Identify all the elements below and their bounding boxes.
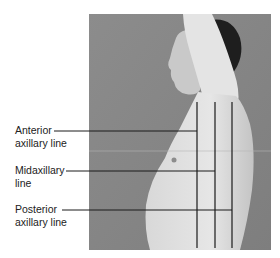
midaxillary-label-line1: Midaxillary <box>15 164 65 177</box>
midaxillary-label-line2: line <box>15 177 65 190</box>
posterior-label-line1: Posterior <box>15 203 67 216</box>
axillary-lines-figure: Anterior axillary line Midaxillary line … <box>0 0 280 258</box>
posterior-label-line2: axillary line <box>15 216 67 229</box>
midaxillary-label: Midaxillary line <box>15 164 65 190</box>
nipple <box>172 158 177 163</box>
anterior-label-line1: Anterior <box>15 124 67 137</box>
anterior-axillary-label: Anterior axillary line <box>15 124 67 150</box>
posterior-axillary-label: Posterior axillary line <box>15 203 67 229</box>
anterior-label-line2: axillary line <box>15 137 67 150</box>
